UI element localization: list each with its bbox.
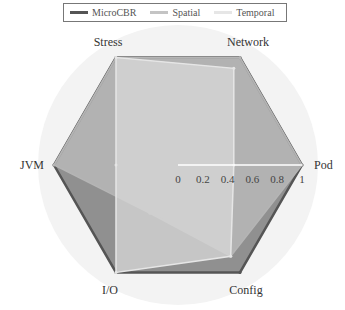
series-temporal-point: [229, 255, 232, 258]
legend-item-microcbr: MicroCBR: [70, 7, 136, 18]
legend-item-spatial: Spatial: [150, 7, 200, 18]
series-microcbr-point: [239, 271, 242, 274]
legend-swatch-temporal: [214, 11, 232, 14]
legend-swatch-spatial: [150, 11, 168, 14]
tick-label: 0.2: [196, 173, 210, 185]
axis-label-pod: Pod: [314, 158, 333, 172]
axis-label-io: I/O: [102, 283, 118, 297]
series-temporal-point: [115, 56, 118, 59]
series-temporal-point: [115, 164, 118, 167]
series-spatial-point: [239, 56, 242, 59]
axis-label-stress: Stress: [94, 35, 123, 49]
legend-label-temporal: Temporal: [236, 7, 274, 18]
tick-label: 0.8: [270, 173, 284, 185]
series-temporal-point: [115, 271, 118, 274]
series-temporal-point: [232, 67, 235, 70]
series-spatial-point: [53, 164, 56, 167]
tick-label: 1: [299, 173, 305, 185]
legend-item-temporal: Temporal: [214, 7, 274, 18]
tick-label: 0.4: [221, 173, 235, 185]
axis-label-jvm: JVM: [20, 158, 44, 172]
tick-label: 0: [175, 173, 181, 185]
legend: MicroCBR Spatial Temporal: [63, 3, 287, 22]
radar-chart: 00.20.40.60.81 PodNetworkStressJVMI/OCon…: [0, 0, 345, 310]
axis-label-config: Config: [229, 283, 262, 297]
tick-label: 0.6: [246, 173, 260, 185]
legend-label-spatial: Spatial: [172, 7, 200, 18]
legend-label-microcbr: MicroCBR: [92, 7, 136, 18]
axis-label-network: Network: [227, 35, 269, 49]
legend-swatch-microcbr: [70, 11, 88, 14]
